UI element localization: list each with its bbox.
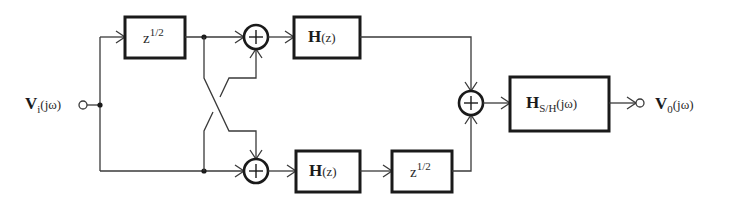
summer-final — [459, 91, 483, 115]
input-junction-dot — [97, 102, 102, 107]
delay-top-label: z1/2 — [143, 27, 164, 46]
input-label: Vi(jω) — [25, 95, 61, 115]
block-diagram-canvas — [0, 0, 734, 209]
filter-bottom-label: H(z) — [309, 162, 337, 179]
cross-coupling-wires — [204, 37, 256, 171]
summer-bottom — [244, 159, 268, 183]
sample-hold-label: HS/H(jω) — [526, 94, 577, 114]
output-label: V0(jω) — [655, 95, 694, 115]
input-terminal — [79, 101, 87, 109]
output-terminal — [636, 99, 644, 107]
summer-top — [244, 25, 268, 49]
delay-bottom-label: z1/2 — [410, 161, 431, 180]
filter-top-label: H(z) — [308, 28, 336, 45]
